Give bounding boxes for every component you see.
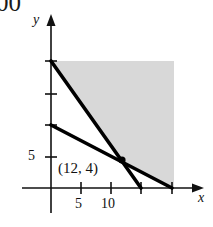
x-tick-label-10: 10	[101, 196, 115, 212]
graph-figure: 00 y x 5 5 10 (12, 4)	[0, 0, 213, 227]
intersection-point-label: (12, 4)	[58, 160, 98, 177]
x-tick-label-5: 5	[75, 196, 82, 212]
y-tick-label-5: 5	[28, 148, 35, 164]
y-axis-arrow-icon	[47, 14, 56, 26]
y-axis-label: y	[33, 12, 39, 28]
x-axis-label: x	[198, 190, 204, 206]
coordinate-plot	[0, 0, 213, 227]
intersection-point-marker	[118, 156, 125, 163]
